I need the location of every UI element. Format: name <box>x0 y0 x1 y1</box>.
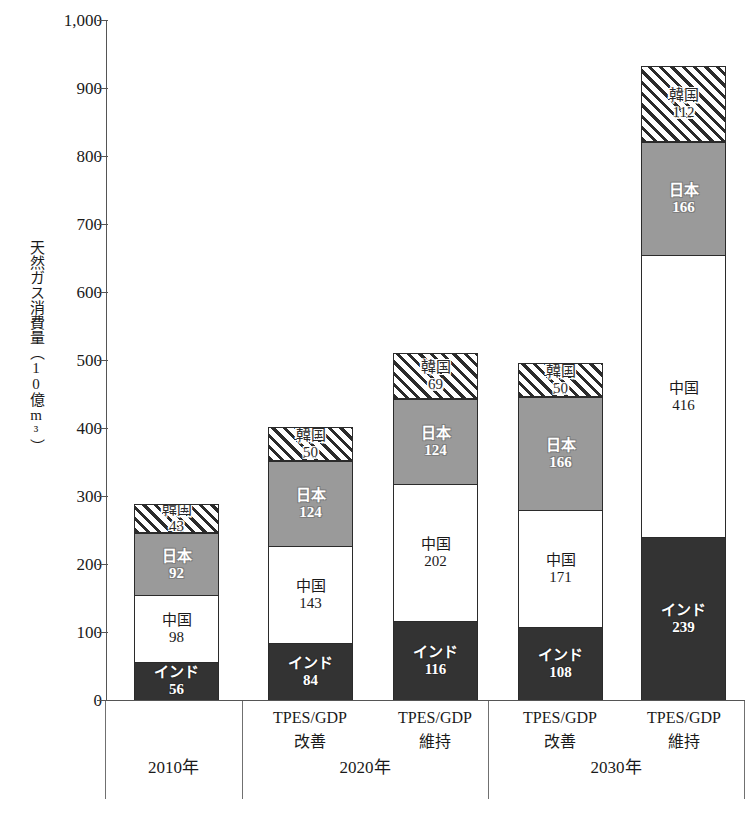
segment-label: インド <box>413 644 458 661</box>
plot-area: インド56中国98日本92韓国43インド84中国143日本124韓国50インド1… <box>0 0 747 816</box>
bar-segment-japan: 日本166 <box>641 142 726 255</box>
segment-label: 日本 <box>669 182 699 199</box>
segment-label: 日本 <box>546 437 576 454</box>
bar-segment-korea: 韓国112 <box>641 66 726 142</box>
bar-segment-china: 中国143 <box>268 546 353 643</box>
x-sub-label-line1: TPES/GDP <box>398 709 472 726</box>
segment-value: 171 <box>549 569 572 586</box>
segment-label: 中国 <box>546 552 576 569</box>
segment-label: インド <box>661 602 706 619</box>
bar-segment-korea: 韓国69 <box>393 353 478 400</box>
segment-value: 124 <box>299 504 322 521</box>
bar-segment-japan: 日本124 <box>268 461 353 545</box>
segment-value: 84 <box>303 672 318 689</box>
bar-segment-korea: 韓国50 <box>268 427 353 461</box>
segment-value: 92 <box>169 565 184 582</box>
bar-segment-china: 中国98 <box>134 595 219 662</box>
x-group-separator <box>105 701 106 799</box>
x-sub-label-line1: TPES/GDP <box>647 709 721 726</box>
x-sub-label-line2: 改善 <box>500 730 620 754</box>
bar-segment-korea: 韓国43 <box>134 504 219 533</box>
segment-label: 中国 <box>162 612 192 629</box>
x-sub-label-2030-maintain: TPES/GDP 維持 <box>624 706 744 754</box>
bar-bar-2030-improve: インド108中国171日本166韓国50 <box>518 363 603 700</box>
bar-segment-japan: 日本92 <box>134 533 219 596</box>
segment-value: 166 <box>549 454 572 471</box>
x-sub-label-line2: 維持 <box>624 730 744 754</box>
segment-label: 韓国 <box>162 504 192 519</box>
bar-bar-2020-improve: インド84中国143日本124韓国50 <box>268 427 353 700</box>
segment-value: 124 <box>424 442 447 459</box>
segment-value: 239 <box>672 619 695 636</box>
bar-segment-china: 中国171 <box>518 510 603 626</box>
segment-label: インド <box>288 655 333 672</box>
segment-value: 143 <box>299 595 322 612</box>
bar-segment-india: インド56 <box>134 662 219 700</box>
bar-bar-2020-maintain: インド116中国202日本124韓国69 <box>393 353 478 700</box>
segment-label: 韓国 <box>546 363 576 380</box>
segment-value: 112 <box>673 104 695 121</box>
x-sub-label-2030-improve: TPES/GDP 改善 <box>500 706 620 754</box>
x-sub-label-line1: TPES/GDP <box>273 709 347 726</box>
segment-value: 108 <box>549 664 572 681</box>
segment-value: 98 <box>169 629 184 646</box>
segment-value: 50 <box>553 380 568 397</box>
segment-label: 中国 <box>421 536 451 553</box>
x-sub-label-2020-maintain: TPES/GDP 維持 <box>375 706 495 754</box>
bar-segment-india: インド108 <box>518 627 603 700</box>
bar-segment-india: インド239 <box>641 537 726 700</box>
segment-label: 韓国 <box>669 87 699 104</box>
x-group-label-2020: 2020年 <box>242 758 488 778</box>
segment-value: 43 <box>169 518 184 533</box>
bar-segment-japan: 日本166 <box>518 397 603 510</box>
bar-segment-japan: 日本124 <box>393 399 478 483</box>
x-sub-label-line2: 維持 <box>375 730 495 754</box>
bar-segment-china: 中国202 <box>393 484 478 621</box>
x-group-label-2010: 2010年 <box>105 758 242 778</box>
segment-label: 中国 <box>296 578 326 595</box>
bar-bar-2010: インド56中国98日本92韓国43 <box>134 503 219 700</box>
x-sub-label-line2: 改善 <box>250 730 370 754</box>
bar-segment-korea: 韓国50 <box>518 363 603 397</box>
segment-label: 日本 <box>421 425 451 442</box>
segment-value: 166 <box>672 199 695 216</box>
x-sub-label-2020-improve: TPES/GDP 改善 <box>250 706 370 754</box>
segment-label: 日本 <box>162 548 192 565</box>
x-sub-label-line1: TPES/GDP <box>523 709 597 726</box>
segment-value: 416 <box>672 397 695 414</box>
segment-label: 韓国 <box>296 427 326 444</box>
bar-segment-china: 中国416 <box>641 255 726 538</box>
bar-segment-india: インド116 <box>393 621 478 700</box>
bar-bar-2030-maintain: インド239中国416日本166韓国112 <box>641 66 726 700</box>
segment-label: 中国 <box>669 380 699 397</box>
x-group-separator <box>242 701 243 799</box>
segment-value: 202 <box>424 553 447 570</box>
segment-value: 69 <box>428 376 443 393</box>
segment-label: インド <box>538 647 583 664</box>
segment-value: 50 <box>303 444 318 461</box>
segment-label: 韓国 <box>421 359 451 376</box>
segment-value: 56 <box>169 681 184 698</box>
bar-segment-india: インド84 <box>268 643 353 700</box>
x-group-separator <box>744 701 745 799</box>
stacked-bar-chart: 天然ガス消費量（10億m³） 1,00090080070060050040030… <box>0 0 747 816</box>
segment-label: インド <box>154 664 199 681</box>
segment-value: 116 <box>425 661 447 678</box>
segment-label: 日本 <box>296 487 326 504</box>
x-group-label-2030: 2030年 <box>488 758 744 778</box>
